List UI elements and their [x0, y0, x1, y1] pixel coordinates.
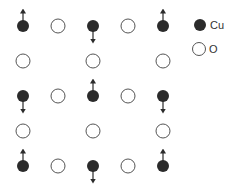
o-atom — [121, 159, 135, 173]
cu-atom — [157, 11, 169, 32]
o-atom-icon — [51, 89, 65, 103]
o-atom — [16, 124, 30, 138]
o-atom-icon — [16, 124, 30, 138]
o-atom — [51, 159, 65, 173]
o-atom — [121, 89, 135, 103]
o-atom-icon — [51, 159, 65, 173]
cu-atom — [157, 90, 169, 111]
o-atom — [51, 89, 65, 103]
o-atom — [121, 19, 135, 33]
cu-atom — [157, 151, 169, 172]
atoms-layer — [16, 11, 170, 181]
o-atom-icon — [121, 89, 135, 103]
cuo2-lattice-diagram: Cu O — [0, 0, 236, 194]
o-atom-icon — [156, 54, 170, 68]
o-atom-icon — [121, 19, 135, 33]
legend-label-cu: Cu — [210, 19, 224, 31]
o-atom-icon — [86, 54, 100, 68]
legend: Cu O — [193, 19, 225, 56]
legend-item-cu: Cu — [194, 19, 224, 31]
o-atom — [86, 54, 100, 68]
cu-atom — [17, 151, 29, 172]
o-atom-icon — [121, 159, 135, 173]
cu-atom — [17, 90, 29, 111]
o-atom-icon — [156, 124, 170, 138]
o-atom — [156, 124, 170, 138]
o-atom — [51, 19, 65, 33]
o-atom — [16, 54, 30, 68]
o-atom — [156, 54, 170, 68]
o-atom-icon — [51, 19, 65, 33]
o-atom-icon — [86, 124, 100, 138]
cu-atom — [87, 81, 99, 102]
cu-atom — [87, 160, 99, 181]
legend-item-o: O — [193, 43, 219, 56]
cu-atom — [17, 11, 29, 32]
cu-legend-icon — [194, 19, 206, 31]
o-legend-icon — [193, 43, 206, 56]
legend-label-o: O — [209, 43, 218, 55]
o-atom-icon — [16, 54, 30, 68]
cu-atom — [87, 20, 99, 41]
o-atom — [86, 124, 100, 138]
